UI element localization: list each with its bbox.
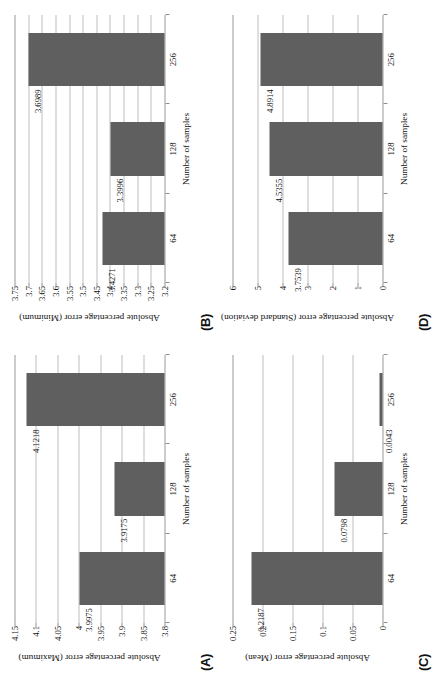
figure-root: (A) Absolute percentage error (Maximum) … <box>0 0 435 680</box>
panel-b-bar[interactable] <box>28 33 164 87</box>
panel-d-y-tick-mark <box>282 283 283 287</box>
panel-b-bar-value-label: 3.3996 <box>114 177 124 203</box>
panel-b-y-tick-label: 3.35 <box>118 286 128 301</box>
panel-c: (C) Absolute percentage error (Mean) 00.… <box>218 340 435 680</box>
panel-b-y-tick-mark <box>164 283 165 287</box>
panel-b-y-tick-mark <box>69 283 70 287</box>
panel-c-x-category-label: 256 <box>385 393 395 406</box>
panel-a-bar-value-label: 3.9975 <box>83 606 93 632</box>
panel-a-bar[interactable] <box>114 462 164 516</box>
panel-d-y-tick-mark <box>257 283 258 287</box>
panel-b-x-tick-mark <box>165 193 169 194</box>
panel-d-x-axis-title: Number of samples <box>398 15 408 283</box>
panel-a-x-category-label: 64 <box>167 574 177 583</box>
panel-d-x-tick-mark <box>383 193 387 194</box>
panel-d-bar[interactable] <box>269 122 382 176</box>
panel-d-gridline <box>257 15 258 283</box>
panel-a-bar-value-label: 4.1218 <box>30 427 40 453</box>
panel-b-bar[interactable] <box>110 122 164 176</box>
panel-c-x-tick-mark <box>383 622 387 623</box>
panel-b-y-tick-label: 3.65 <box>36 286 46 301</box>
panel-c-y-tick-mark <box>292 623 293 627</box>
panel-b-plot-area: 3.42713.39963.6989 <box>14 15 165 283</box>
panel-a-bar[interactable] <box>26 373 164 427</box>
panel-a-y-tick-mark <box>164 623 165 627</box>
panel-a-x-tick-mark <box>165 533 169 534</box>
panel-c-bar[interactable] <box>251 552 382 606</box>
panel-b: (B) Absolute percentage error (Minimum) … <box>0 0 217 340</box>
panel-d-bar-value-label: 4.5355 <box>273 177 283 203</box>
panel-a-bar[interactable] <box>79 552 164 606</box>
panel-a-y-tick-mark <box>78 623 79 627</box>
panel-c-y-axis-title-text: Absolute percentage error (Mean) <box>245 653 370 663</box>
panel-a-y-tick-mark <box>143 623 144 627</box>
panel-d-y-tick-mark <box>382 283 383 287</box>
panel-c-y-tick-label: 0.25 <box>227 626 237 641</box>
panel-a-y-tick-label: 3.85 <box>138 626 148 641</box>
panel-c-x-category-label: 128 <box>385 482 395 495</box>
panel-c-x-tick-mark <box>383 533 387 534</box>
panel-b-y-tick-labels: 3.23.253.33.353.43.453.53.553.63.653.73.… <box>14 284 164 310</box>
panel-d-y-tick-labels: 0123456 <box>232 284 382 310</box>
panel-b-x-axis: 64128256 <box>165 15 178 283</box>
panel-d-letter: (D) <box>415 314 430 331</box>
panel-b-x-category-label: 64 <box>167 234 177 243</box>
panel-d-y-tick-mark <box>332 283 333 287</box>
panel-a-x-category-label: 256 <box>167 393 177 406</box>
panel-d-bar[interactable] <box>260 33 382 87</box>
panel-d-y-tick-mark <box>357 283 358 287</box>
panel-c-y-tick-label: 0.1 <box>317 626 327 637</box>
panel-a: (A) Absolute percentage error (Maximum) … <box>0 340 217 680</box>
panel-d-x-category-label: 64 <box>385 234 395 243</box>
panel-d-x-category-label: 256 <box>385 53 395 66</box>
panel-a-y-tick-mark <box>14 623 15 627</box>
panel-d-x-axis: 64128256 <box>383 15 396 283</box>
panel-c-x-axis-title: Number of samples <box>398 355 408 623</box>
panel-a-y-tick-mark <box>121 623 122 627</box>
panel-a-x-tick-mark <box>165 622 169 623</box>
panel-d-plot-area: 3.75394.53554.8914 <box>232 15 383 283</box>
panel-c-x-tick-mark <box>383 354 387 355</box>
panel-a-gridline <box>14 355 15 623</box>
panel-a-bar-value-label: 3.9175 <box>118 517 128 543</box>
panel-c-x-tick-mark <box>383 443 387 444</box>
panel-a-x-category-label: 128 <box>167 482 177 495</box>
panel-d-y-tick-mark <box>307 283 308 287</box>
panel-b-letter: (B) <box>197 314 212 331</box>
panel-a-y-tick-label: 3.9 <box>116 626 126 637</box>
panel-d-x-tick-mark <box>383 14 387 15</box>
panel-b-x-category-label: 128 <box>167 142 177 155</box>
panel-b-bar[interactable] <box>102 212 164 266</box>
panel-b-y-tick-label: 3.3 <box>132 286 142 297</box>
panel-c-bar-value-label: 0.2187 <box>255 606 265 632</box>
panel-a-y-tick-label: 3.8 <box>159 626 169 637</box>
panel-b-bar-value-label: 3.4271 <box>106 266 116 292</box>
panel-d-y-axis-title-text: Absolute percentage error (Standard devi… <box>221 313 394 323</box>
panel-c-x-axis: 64128256 <box>383 355 396 623</box>
panel-d-bar[interactable] <box>288 212 382 266</box>
panel-d-y-tick-mark <box>232 283 233 287</box>
panel-c-bar[interactable] <box>334 462 382 516</box>
panel-b-y-tick-label: 3.25 <box>145 286 155 301</box>
panel-b-y-axis-title-text: Absolute percentage error (Minimum) <box>19 313 160 323</box>
panel-c-y-tick-label: 0.15 <box>287 626 297 641</box>
panel-b-y-tick-mark <box>150 283 151 287</box>
panel-c-gridline <box>232 355 233 623</box>
panel-d-bar-value-label: 3.7539 <box>292 266 302 292</box>
rotated-page-wrapper: (A) Absolute percentage error (Maximum) … <box>0 0 435 680</box>
panel-c-y-tick-mark <box>352 623 353 627</box>
panel-c-bar[interactable] <box>379 373 382 427</box>
panel-a-y-tick-mark <box>35 623 36 627</box>
panel-a-y-tick-mark <box>57 623 58 627</box>
panel-c-y-tick-mark <box>322 623 323 627</box>
panel-b-y-tick-mark <box>55 283 56 287</box>
panel-b-x-category-label: 256 <box>167 53 177 66</box>
panel-a-x-tick-mark <box>165 354 169 355</box>
panel-d-gridline <box>232 15 233 283</box>
panel-c-bar-value-label: 0.0798 <box>338 517 348 543</box>
panel-b-y-tick-label: 3.6 <box>50 286 60 297</box>
panel-c-plot-area: 0.21870.07980.0043 <box>232 355 383 623</box>
panel-b-y-tick-label: 3.45 <box>91 286 101 301</box>
panel-d-y-axis-title: Absolute percentage error (Standard devi… <box>232 310 382 326</box>
panel-d-x-tick-mark <box>383 103 387 104</box>
